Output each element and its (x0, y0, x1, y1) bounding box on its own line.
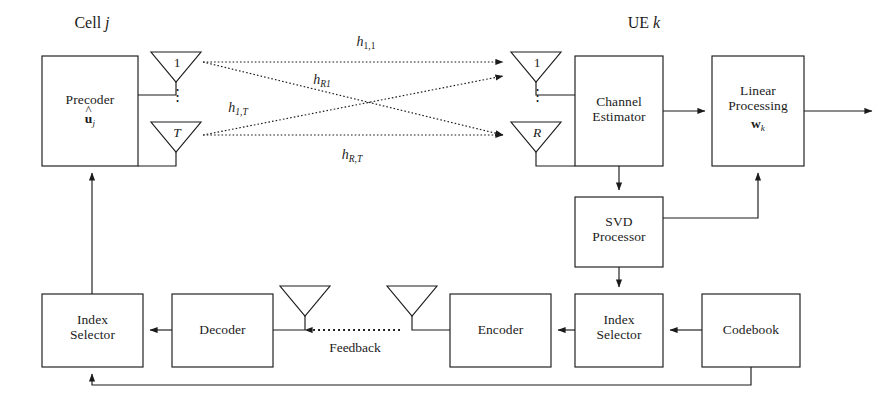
channel-label-hRT-sub: R,T (349, 154, 362, 164)
linear-processing-line1: Linear (709, 83, 807, 98)
feedback-link-label: Feedback (305, 340, 405, 355)
channel-label-hR1: hR1 (292, 72, 352, 88)
svd-processor-line2: Processor (575, 229, 663, 244)
transmitter-title-text: Cell j (74, 14, 109, 31)
ue-feedback-antenna-symbol (387, 286, 437, 316)
svd-processor-line1: SVD (575, 214, 663, 229)
channel-label-h11-sub: 1,1 (364, 41, 376, 51)
rx-antenna-R-label: R (526, 125, 548, 140)
channel-label-h1T-sub: 1,T (235, 107, 247, 117)
arrow-svd-to-linear (663, 173, 758, 218)
channel-estimator-line1: Channel (575, 94, 663, 109)
index-selector-bs-line2: Selector (42, 327, 143, 342)
linear-processing-symbol: wk (709, 116, 807, 131)
channel-estimator-line2: Estimator (575, 109, 663, 124)
rx-antenna-R-stem (536, 152, 575, 166)
encoder-label: Encoder (450, 322, 551, 337)
precoder-label-symbol: ^uj (42, 111, 138, 126)
channel-label-h11-base: h (357, 34, 364, 49)
figure-canvas: Cell j UE k Precoder ^uj 1 T ⋮ 1 R ⋮ h1,… (0, 0, 894, 402)
tx-antenna-1-label: 1 (166, 55, 188, 70)
linear-processing-label: Linear Processing wk (709, 83, 807, 131)
channel-path-hR1 (203, 62, 503, 135)
channel-estimator-label: Channel Estimator (575, 94, 663, 124)
precoder-symbol-subscript: j (92, 118, 95, 128)
rx-antenna-1-label: 1 (526, 55, 548, 70)
precoder-hat-accent: ^ (86, 103, 92, 117)
channel-label-hRT-base: h (342, 147, 349, 162)
linear-processing-line2: Processing (709, 98, 807, 113)
linear-processing-symbol-subscript: k (761, 123, 765, 133)
tx-antenna-T-label: T (166, 125, 188, 140)
index-selector-bs-label: Index Selector (42, 312, 143, 342)
receiver-title-text: UE k (628, 14, 660, 31)
ue-feedback-antenna-stem (412, 316, 450, 330)
rx-antenna-ellipsis: ⋮ (526, 93, 548, 97)
codebook-label: Codebook (702, 322, 800, 337)
channel-label-h11: h1,1 (336, 34, 396, 50)
codebook-global-feedback-loop (92, 367, 751, 385)
bs-feedback-antenna-stem (273, 316, 305, 330)
index-selector-ue-line1: Index (575, 312, 663, 327)
index-selector-ue-line2: Selector (575, 327, 663, 342)
channel-label-hRT: hR,T (322, 147, 382, 163)
tx-antenna-ellipsis: ⋮ (166, 93, 188, 97)
linear-processing-symbol-w: w (751, 116, 761, 131)
channel-label-hR1-sub: R1 (320, 79, 331, 89)
decoder-label: Decoder (172, 322, 273, 337)
receiver-section-title: UE k (584, 14, 704, 32)
transmitter-section-title: Cell j (32, 14, 152, 32)
channel-label-h1T: h1,T (208, 100, 268, 116)
svd-processor-label: SVD Processor (575, 214, 663, 244)
precoder-label: Precoder ^uj (42, 92, 138, 126)
bs-feedback-antenna-symbol (280, 286, 330, 316)
index-selector-bs-line1: Index (42, 312, 143, 327)
index-selector-ue-label: Index Selector (575, 312, 663, 342)
tx-antenna-T-stem (138, 152, 176, 166)
